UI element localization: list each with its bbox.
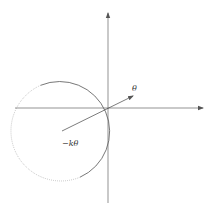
neg-k-theta-label: −kθ	[62, 139, 79, 148]
theta-vector-arrow	[62, 96, 133, 131]
circle-dotted-arc	[11, 85, 80, 181]
angle-diagram: θ −kθ	[0, 0, 212, 210]
theta-label: θ	[132, 84, 137, 93]
circle-solid-arc	[41, 82, 110, 178]
